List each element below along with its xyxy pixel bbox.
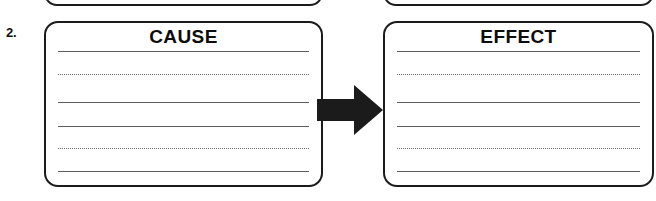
item-number-label: 2.: [6, 26, 16, 39]
cause-writing-line-2[interactable]: [58, 74, 309, 75]
effect-writing-line-4[interactable]: [397, 126, 640, 127]
cause-box-title: CAUSE: [46, 26, 321, 47]
cause-writing-line-4[interactable]: [58, 126, 309, 127]
effect-box[interactable]: EFFECT: [383, 21, 654, 187]
effect-writing-line-2[interactable]: [397, 74, 640, 75]
cause-writing-line-1[interactable]: [58, 51, 309, 52]
effect-writing-line-3[interactable]: [397, 102, 640, 103]
previous-item-effect-box-partial: [383, 0, 654, 6]
cause-writing-line-3[interactable]: [58, 102, 309, 103]
right-arrow-icon: [317, 83, 383, 137]
effect-writing-line-1[interactable]: [397, 51, 640, 52]
effect-writing-line-5[interactable]: [397, 148, 640, 149]
worksheet-canvas: 2. CAUSE EFFECT: [0, 0, 656, 201]
cause-writing-line-6[interactable]: [58, 171, 309, 172]
cause-writing-line-5[interactable]: [58, 148, 309, 149]
effect-box-title: EFFECT: [385, 26, 652, 47]
cause-box[interactable]: CAUSE: [44, 21, 323, 187]
previous-item-cause-box-partial: [44, 0, 323, 6]
effect-writing-line-6[interactable]: [397, 171, 640, 172]
